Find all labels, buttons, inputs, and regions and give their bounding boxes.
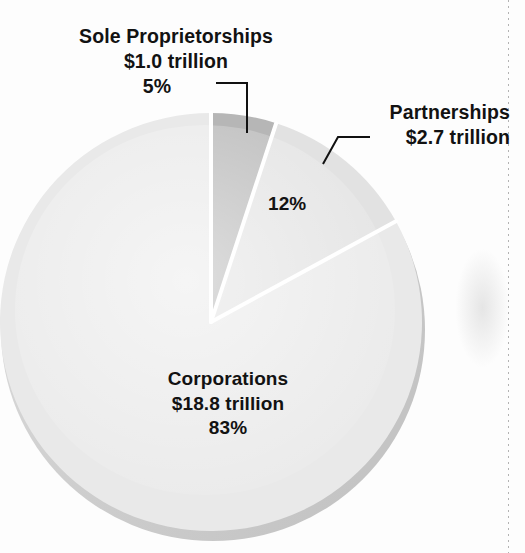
label-partnerships-percent: 12% bbox=[268, 192, 306, 217]
label-corporations-value: $18.8 trillion bbox=[118, 392, 338, 417]
label-corporations: Corporations $18.8 trillion 83% bbox=[118, 367, 338, 441]
label-partnerships: Partnerships $2.7 trillion bbox=[360, 100, 510, 150]
label-partnerships-value: $2.7 trillion bbox=[360, 125, 510, 150]
label-partnerships-name: Partnerships bbox=[360, 100, 510, 125]
label-sole-proprietorships: Sole Proprietorships $1.0 trillion 5% bbox=[66, 24, 286, 99]
label-corporations-percent: 83% bbox=[118, 416, 338, 441]
label-corporations-name: Corporations bbox=[118, 367, 338, 392]
label-sole-proprietorships-value: $1.0 trillion bbox=[66, 49, 286, 74]
label-sole-proprietorships-name: Sole Proprietorships bbox=[66, 24, 286, 49]
chart-page: Sole Proprietorships $1.0 trillion 5% Pa… bbox=[0, 0, 525, 553]
label-sole-proprietorships-percent: 5% bbox=[66, 74, 286, 99]
